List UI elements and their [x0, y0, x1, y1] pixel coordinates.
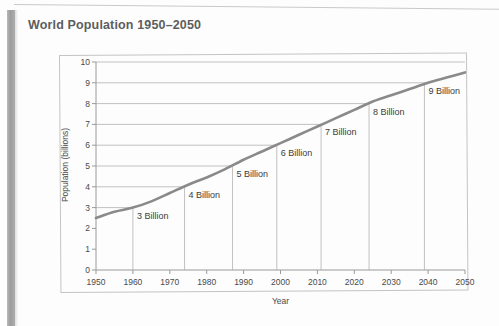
x-axis-title: Year [272, 296, 289, 306]
milestone-label-7-billion: 7 Billion [325, 127, 357, 137]
page-gutter-shadow [7, 10, 15, 326]
x-axis-label-1980: 1980 [197, 277, 216, 287]
milestone-label-5-billion: 5 Billion [237, 169, 269, 179]
y-axis-label-0: 0 [66, 265, 90, 275]
x-axis-label-2000: 2000 [271, 277, 290, 287]
x-axis-label-1960: 1960 [123, 277, 142, 287]
page-gutter-falloff [15, 10, 18, 326]
x-axis-label-1950: 1950 [87, 277, 106, 287]
axis-ticks-group [92, 62, 465, 274]
y-axis-title: Population (billions) [60, 122, 70, 208]
x-axis-label-1970: 1970 [160, 277, 179, 287]
page-canvas: World Population 1950–2050 012345678910 … [0, 0, 499, 326]
y-axis-label-1: 1 [66, 244, 90, 254]
milestone-label-3-billion: 3 Billion [137, 211, 169, 221]
y-axis-label-8: 8 [66, 99, 90, 109]
y-axis-label-10: 10 [66, 57, 90, 67]
milestone-label-6-billion: 6 Billion [281, 148, 313, 158]
x-axis-label-1990: 1990 [234, 277, 253, 287]
x-axis-label-2050: 2050 [456, 277, 475, 287]
y-axis-label-2: 2 [66, 223, 90, 233]
milestone-label-9-billion: 9 Billion [428, 86, 460, 96]
x-axis-label-2010: 2010 [308, 277, 327, 287]
x-axis-label-2030: 2030 [382, 277, 401, 287]
scan-edge-line [14, 4, 499, 10]
milestone-label-8-billion: 8 Billion [373, 107, 405, 117]
page-title: World Population 1950–2050 [28, 18, 201, 32]
x-axis-label-2020: 2020 [345, 277, 364, 287]
x-axis-label-2040: 2040 [419, 277, 438, 287]
y-axis-label-9: 9 [66, 78, 90, 88]
milestone-label-4-billion: 4 Billion [189, 190, 221, 200]
chart-container: 012345678910 195019601970198019902000201… [56, 50, 468, 295]
